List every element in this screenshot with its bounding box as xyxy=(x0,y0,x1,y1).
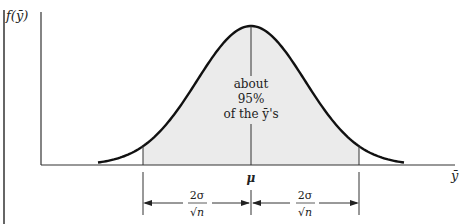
left-arrowhead-outer xyxy=(143,200,152,206)
mean-label: μ xyxy=(247,171,256,185)
left-arrowhead-inner xyxy=(241,200,250,206)
right-interval-denominator: √n xyxy=(298,206,312,219)
sampling-distribution-diagram: f(ȳ) ȳ about 95% of the ȳ's μ 2σ √n 2σ √… xyxy=(0,0,467,224)
annotation-line-2: 95% xyxy=(238,92,265,106)
y-axis-label: f(ȳ) xyxy=(5,8,28,23)
x-axis-label: ȳ xyxy=(450,168,459,183)
left-interval-numerator: 2σ xyxy=(190,189,205,202)
left-interval-denominator: √n xyxy=(190,206,204,219)
annotation-line-1: about xyxy=(234,77,269,91)
right-arrowhead-outer xyxy=(350,200,359,206)
right-interval-numerator: 2σ xyxy=(298,189,313,202)
right-arrowhead-inner xyxy=(252,200,261,206)
annotation-line-3: of the ȳ's xyxy=(223,107,278,121)
